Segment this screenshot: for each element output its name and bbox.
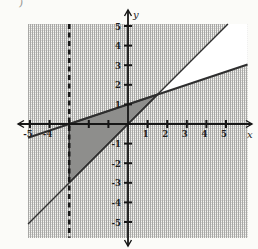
- x-tick-label: -5: [23, 129, 33, 139]
- y-tick-label: 2: [115, 80, 121, 90]
- y-tick-label: -4: [112, 198, 122, 208]
- y-axis-letter: y: [132, 9, 139, 20]
- y-tick-label: -3: [112, 178, 122, 188]
- x-tick-label: 4: [201, 129, 207, 139]
- chart-layers: -5-41234554321-1-2-3-4-5: [18, 10, 252, 246]
- y-tick-label: 4: [115, 41, 121, 51]
- y-tick-label: -2: [112, 159, 122, 169]
- x-axis-letter: x: [247, 129, 253, 140]
- x-tick-label: 5: [221, 129, 227, 139]
- scanned-graph-page: ) -5-41234554321-1-2-3-4-5 x y: [0, 0, 258, 249]
- coordinate-plane: -5-41234554321-1-2-3-4-5 x y: [0, 0, 258, 249]
- x-tick-label: -4: [43, 129, 53, 139]
- x-tick-label: 2: [162, 129, 168, 139]
- x-tick-label: 1: [143, 129, 149, 139]
- y-tick-label: -1: [112, 139, 122, 149]
- y-tick-label: 1: [115, 100, 121, 110]
- y-tick-label: 3: [115, 61, 121, 71]
- y-tick-label: -5: [112, 218, 122, 228]
- x-tick-label: 3: [182, 129, 188, 139]
- y-tick-label: 5: [115, 22, 121, 32]
